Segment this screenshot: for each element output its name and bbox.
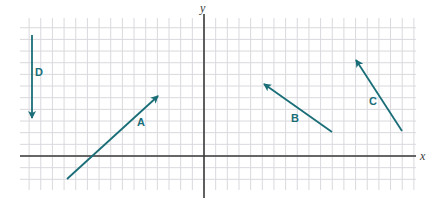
vector-label: A (137, 116, 145, 128)
vector-arrow (67, 96, 158, 179)
vector-a: A (67, 96, 158, 179)
vector-label: B (291, 112, 299, 124)
vector-diagram: x y ABCD (0, 0, 439, 200)
axes: x y (20, 1, 426, 198)
x-axis-label: x (419, 149, 426, 163)
vector-label: C (369, 95, 377, 107)
vector-label: D (35, 66, 43, 78)
y-axis-label: y (199, 1, 206, 15)
grid (20, 18, 416, 190)
vector-d: D (32, 35, 43, 118)
